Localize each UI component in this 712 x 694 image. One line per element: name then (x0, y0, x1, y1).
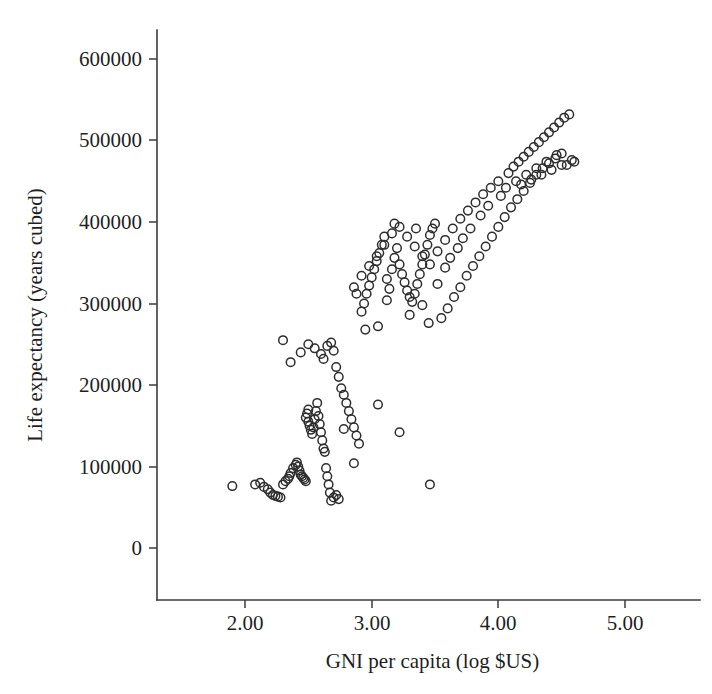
data-point (545, 128, 554, 137)
data-point (342, 399, 351, 408)
data-point-layer (228, 110, 579, 505)
data-point (365, 281, 374, 290)
data-point (374, 322, 383, 331)
data-point (446, 254, 455, 263)
data-point (340, 425, 349, 434)
data-point (522, 170, 531, 179)
data-point (416, 270, 425, 279)
data-point (395, 260, 404, 269)
y-tick-label: 600000 (79, 47, 142, 71)
data-point (481, 242, 490, 251)
data-point (437, 314, 446, 323)
data-point (412, 224, 421, 233)
data-point (540, 133, 549, 142)
data-point (497, 192, 506, 201)
x-tick-label: 3.00 (354, 611, 391, 635)
y-axis-title: Life expectancy (years cubed) (23, 188, 47, 442)
data-point (362, 289, 371, 298)
data-point (462, 271, 471, 280)
axes-group (157, 30, 700, 600)
data-point (383, 296, 392, 305)
data-point (519, 153, 528, 162)
data-point (418, 301, 427, 310)
data-point (459, 234, 468, 243)
data-point (454, 244, 463, 253)
data-point (352, 431, 361, 440)
y-axis-ticks: 6000005000004000003000002000001000000 (79, 47, 157, 560)
data-point (494, 177, 503, 186)
data-point (464, 206, 473, 215)
data-point (479, 190, 488, 199)
data-point (448, 224, 457, 233)
data-point (426, 480, 435, 489)
y-tick-label: 100000 (79, 455, 142, 479)
data-point (475, 252, 484, 261)
data-point (347, 415, 356, 424)
x-tick-label: 2.00 (227, 611, 264, 635)
data-point (393, 244, 402, 253)
y-tick-label: 500000 (79, 128, 142, 152)
data-point (433, 280, 442, 289)
data-point (502, 183, 511, 192)
data-point (304, 340, 313, 349)
data-point (296, 348, 305, 357)
data-point (367, 273, 376, 282)
data-point (500, 213, 509, 222)
data-point (318, 436, 327, 445)
data-point (385, 285, 394, 294)
y-tick-label: 200000 (79, 373, 142, 397)
data-point (507, 203, 516, 212)
x-tick-label: 5.00 (607, 611, 644, 635)
data-point (403, 232, 412, 241)
data-point (513, 195, 522, 204)
data-point (456, 283, 465, 292)
x-axis-ticks: 2.003.004.005.00 (227, 600, 644, 635)
data-point (550, 123, 559, 132)
data-point (350, 423, 359, 432)
data-point (350, 459, 359, 468)
data-point (424, 319, 433, 328)
data-point (332, 363, 341, 372)
data-point (413, 280, 422, 289)
data-point (488, 232, 497, 241)
data-point (410, 242, 419, 251)
data-point (228, 482, 237, 491)
data-point (361, 325, 370, 334)
data-point (286, 358, 295, 367)
data-point (400, 278, 409, 287)
data-point (313, 399, 322, 408)
data-point (329, 346, 338, 355)
y-tick-label: 0 (132, 536, 143, 560)
y-tick-label: 300000 (79, 292, 142, 316)
data-point (484, 201, 493, 210)
data-point (542, 157, 551, 166)
data-point (398, 270, 407, 279)
data-point (324, 480, 333, 489)
data-point (469, 262, 478, 271)
data-point (405, 311, 414, 320)
x-axis-title: GNI per capita (log $US) (326, 649, 539, 673)
data-point (557, 149, 566, 158)
data-point (360, 299, 369, 308)
data-point (530, 143, 539, 152)
data-point (395, 428, 404, 437)
data-point (345, 407, 354, 416)
data-point (494, 223, 503, 232)
data-point (450, 293, 459, 302)
data-point (441, 263, 450, 272)
data-point (388, 229, 397, 238)
data-point (322, 464, 331, 473)
data-point (374, 400, 383, 409)
data-point (355, 439, 364, 448)
data-point (568, 156, 577, 165)
data-point (471, 198, 480, 207)
data-point (466, 224, 475, 233)
data-point (433, 247, 442, 256)
x-tick-label: 4.00 (480, 611, 517, 635)
data-point (279, 336, 288, 345)
data-point (317, 428, 326, 437)
data-point (357, 271, 366, 280)
data-point (418, 252, 427, 261)
data-point (323, 472, 332, 481)
data-point (423, 241, 432, 250)
